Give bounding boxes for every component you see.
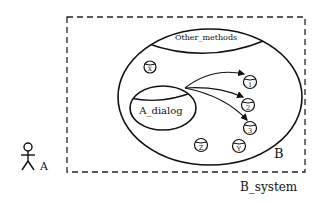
- node-2: 2: [242, 99, 255, 112]
- edges: [185, 72, 247, 120]
- svg-text:2: 2: [246, 104, 250, 112]
- other-methods-label: Other_methods: [175, 33, 237, 42]
- svg-text:1: 1: [248, 81, 252, 89]
- edge-dialog-to-2: [185, 88, 243, 97]
- svg-text:3: 3: [248, 127, 252, 135]
- system-label: B_system: [240, 180, 298, 194]
- node-y: Y: [233, 140, 246, 153]
- node-3: 3: [244, 122, 257, 135]
- actor-label: A: [39, 160, 49, 173]
- edge-dialog-to-1: [185, 72, 244, 88]
- component-b-label: B: [274, 146, 284, 161]
- svg-text:Z: Z: [199, 144, 204, 152]
- svg-text:Y: Y: [236, 145, 242, 153]
- a-dialog-label: A_dialog: [138, 105, 183, 117]
- svg-text:X: X: [148, 65, 153, 72]
- diagram-canvas: Other_methods X A_dialog 1 2 3 Z: [0, 0, 322, 203]
- actor-icon: [21, 143, 35, 170]
- node-1: 1: [244, 76, 257, 89]
- node-x: X: [144, 61, 156, 73]
- node-z: Z: [195, 139, 208, 152]
- component-b: [118, 29, 302, 165]
